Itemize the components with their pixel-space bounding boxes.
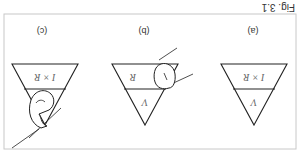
bottom-text-b: V	[140, 97, 148, 108]
label-c: (c)	[37, 26, 48, 36]
top-text-b: R	[130, 72, 137, 83]
figure-caption: Fig. 3.1	[261, 2, 295, 13]
top-text-c: I × R	[34, 72, 56, 83]
panel-c: I × R (c)	[12, 26, 78, 148]
finger-icon-c	[12, 91, 61, 148]
top-text-a: I × R	[243, 72, 265, 83]
finger-icon-b	[154, 48, 193, 89]
ohms-law-figure: Fig. 3.1 V I × R (a) V R (b)	[0, 0, 297, 152]
bottom-text-a: V	[249, 97, 257, 108]
label-a: (a)	[247, 26, 258, 36]
panel-a: V I × R (a)	[221, 26, 287, 125]
label-b: (b)	[138, 26, 149, 36]
panel-b: V R (b)	[112, 26, 193, 125]
